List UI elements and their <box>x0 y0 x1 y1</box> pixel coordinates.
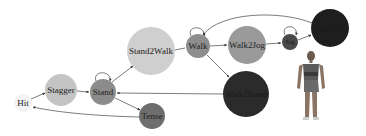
node-jog2walk: Jog2Walk <box>311 9 349 47</box>
edge-walk2stand-stand <box>117 93 223 94</box>
node-label: Stagger <box>47 85 75 95</box>
edge-walk-walk2jog <box>210 45 227 46</box>
node-label: Stand <box>93 87 114 97</box>
node-walk: Walk <box>186 34 210 58</box>
edge-jog-self <box>284 27 296 35</box>
node-stagger: Stagger <box>45 74 77 106</box>
edge-walk2jog-jog <box>266 43 281 44</box>
node-label: Walk <box>189 41 208 51</box>
node-tense: Tense <box>139 103 165 129</box>
node-stand: Stand <box>90 79 116 105</box>
node-jog: Jog <box>282 34 298 50</box>
edge-stand2walk-walk <box>175 48 185 50</box>
node-label: Hit <box>17 98 29 108</box>
node-walk2jog: Walk2Jog <box>228 26 266 64</box>
node-walk2stand: Walk2Stand <box>223 71 269 117</box>
edge-walk-walk2stand <box>207 55 229 77</box>
edge-stagger-stand <box>77 91 89 92</box>
state-machine-diagram: Hit Stagger Stand Stand2Walk Tense Walk … <box>0 0 366 136</box>
node-label: Stand2Walk <box>129 46 173 56</box>
edge-tense-hit <box>33 107 139 117</box>
node-label: Walk2Stand <box>225 89 267 99</box>
node-stand2walk: Stand2Walk <box>127 27 175 75</box>
character-figure <box>297 51 325 120</box>
node-hit: Hit <box>14 94 32 112</box>
node-label: Jog2Walk <box>315 24 345 33</box>
edge-hit-stagger <box>31 93 45 99</box>
edge-jog-jog2walk <box>298 35 311 40</box>
node-label: Tense <box>142 111 163 121</box>
edge-stand-tense <box>115 98 140 110</box>
edge-stand-stand2walk <box>112 66 133 82</box>
node-label: Jog <box>285 38 295 46</box>
edges <box>31 15 312 117</box>
node-label: Walk2Jog <box>229 40 265 50</box>
